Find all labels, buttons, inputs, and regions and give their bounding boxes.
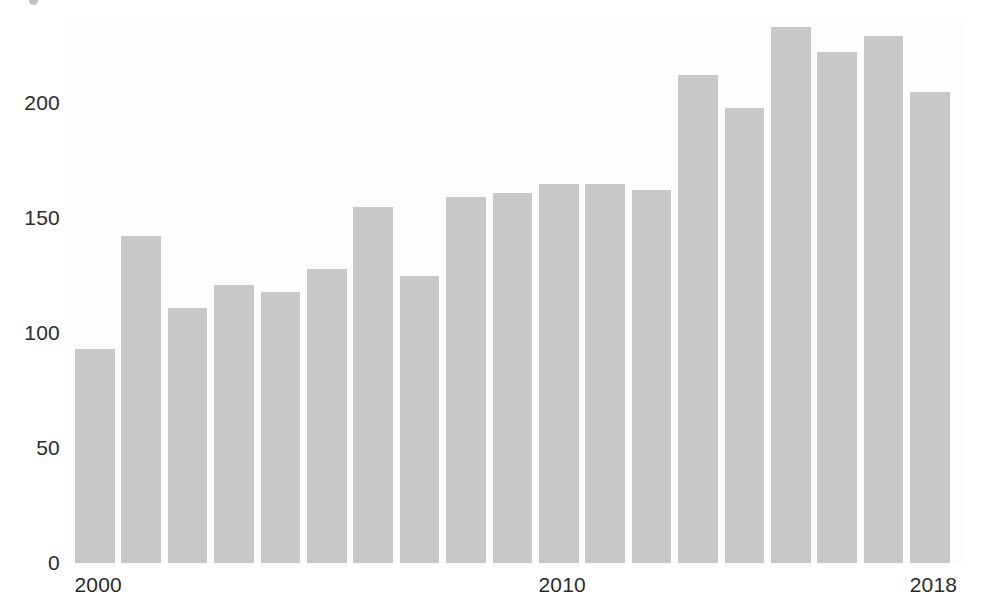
x-axis-tick-label: 2000 [74, 574, 122, 595]
bar [864, 36, 904, 563]
bar [817, 52, 857, 563]
bar-chart: 050100150200 200020102018 [0, 0, 984, 616]
bar [539, 184, 579, 564]
bar [493, 193, 533, 563]
bar [585, 184, 625, 564]
bar [75, 349, 115, 563]
bar [910, 92, 950, 564]
y-axis-tick-label: 50 [2, 437, 60, 458]
bar [632, 190, 672, 563]
y-axis-tick-label: 200 [2, 92, 60, 113]
bars-layer [0, 0, 984, 616]
x-axis-tick-label: 2010 [538, 574, 586, 595]
y-axis-ticks: 050100150200 [0, 0, 60, 616]
bar [771, 27, 811, 563]
bar [168, 308, 208, 563]
y-axis-tick-label: 150 [2, 207, 60, 228]
bar [307, 269, 347, 563]
y-axis-tick-label: 100 [2, 322, 60, 343]
bar [400, 276, 440, 564]
bar [214, 285, 254, 563]
bar [446, 197, 486, 563]
x-axis-tick-label: 2018 [910, 574, 958, 595]
bar [121, 236, 161, 563]
bar [353, 207, 393, 564]
y-axis-tick-label: 0 [2, 552, 60, 573]
bar [725, 108, 765, 563]
bar [678, 75, 718, 563]
bar [261, 292, 301, 563]
